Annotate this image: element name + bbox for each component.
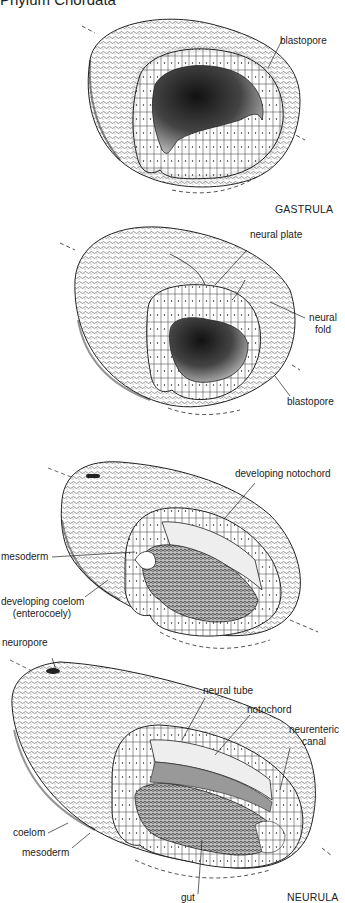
label-developing-notochord: developing notochord	[235, 468, 331, 480]
stage-label-gastrula: GASTRULA	[275, 203, 333, 215]
gastrula-figure	[82, 19, 305, 193]
mid-neurula-figure	[48, 462, 318, 649]
label-blastopore-neurula-early: blastopore	[287, 396, 334, 408]
label-mesoderm-neurula: mesoderm	[22, 847, 69, 859]
label-coelom: coelom	[13, 827, 45, 839]
label-neurenteric-canal-line2: canal	[302, 736, 326, 747]
early-neurula-figure	[60, 227, 305, 415]
label-developing-coelom-line2: (enterocoely)	[13, 608, 71, 619]
label-neuropore: neuropore	[2, 637, 48, 649]
label-mesoderm-mid: mesoderm	[1, 551, 48, 563]
embryo-illustrations	[0, 0, 345, 903]
label-blastopore-gastrula: blastopore	[280, 35, 327, 47]
stage-label-neurula: NEURULA	[287, 891, 339, 903]
label-neural-plate: neural plate	[250, 229, 302, 241]
label-neurenteric-canal: neurenteric canal	[285, 724, 343, 748]
label-neural-tube: neural tube	[203, 685, 253, 697]
label-notochord: notochord	[247, 704, 291, 716]
label-neural-fold-line2: fold	[315, 324, 331, 335]
label-developing-coelom: developing coelom (enterocoely)	[1, 596, 83, 620]
label-neural-fold-line1: neural	[309, 312, 337, 323]
label-gut: gut	[181, 892, 195, 903]
label-neural-fold: neural fold	[305, 312, 341, 336]
label-developing-coelom-line1: developing coelom	[1, 596, 84, 607]
label-neurenteric-canal-line1: neurenteric	[289, 724, 339, 735]
